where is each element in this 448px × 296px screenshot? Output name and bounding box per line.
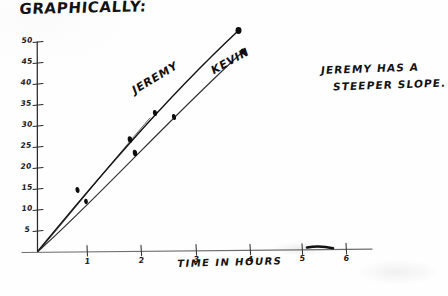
x-tick-label-5: 5 (299, 255, 305, 263)
y-tick-label-5: 5 (24, 226, 30, 234)
x-tick-label-6: 6 (343, 255, 349, 263)
series-line-jeremy (38, 31, 239, 252)
y-tick-label-35: 35 (20, 99, 32, 107)
y-tick-label-10: 10 (21, 204, 33, 212)
annotation-line-1: JEREMY HAS A (320, 61, 419, 76)
y-tick-label-15: 15 (21, 183, 33, 191)
handwritten-note-page: GRAPHICALLY: (0, 0, 448, 296)
y-tick-label-25: 25 (20, 141, 32, 149)
y-tick-label-40: 40 (20, 78, 32, 86)
chart-canvas (0, 0, 448, 296)
y-tick-label-20: 20 (20, 162, 32, 170)
x-tick-label-1: 1 (84, 258, 90, 266)
x-tick-label-2: 2 (138, 257, 144, 265)
x-axis (22, 249, 372, 252)
y-tick-label-45: 45 (21, 57, 33, 65)
ink-smudge (307, 247, 333, 249)
y-tick-label-30: 30 (21, 120, 33, 128)
y-tick-label-50: 50 (21, 36, 33, 44)
annotation-note: JEREMY HAS A STEEPER SLOPE. (318, 58, 448, 96)
